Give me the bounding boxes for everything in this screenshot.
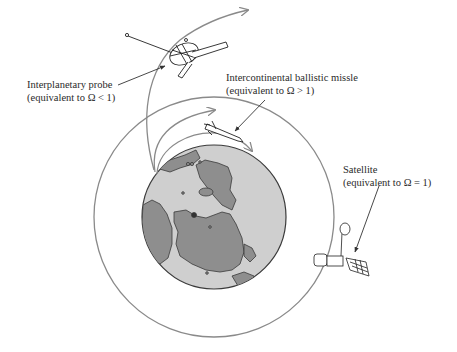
probe-label-omega: (equivalent to Ω < 1)	[27, 92, 115, 105]
missile-label: Intercontinental ballistic missle (equiv…	[226, 72, 358, 97]
satellite-label-title: Satellite	[343, 164, 431, 177]
satellite-label-omega: (equivalent to Ω = 1)	[343, 177, 431, 190]
missile-leader-line	[235, 100, 265, 131]
ballistic-missile-icon	[204, 121, 243, 142]
probe-label: Interplanetary probe (equivalent to Ω < …	[27, 79, 115, 104]
earth	[142, 145, 286, 289]
probe-leader-line	[118, 66, 165, 85]
missile-label-title: Intercontinental ballistic missle	[226, 72, 358, 85]
missile-label-omega: (equivalent to Ω > 1)	[226, 85, 358, 98]
satellite-label: Satellite (equivalent to Ω = 1)	[343, 164, 431, 189]
probe-label-title: Interplanetary probe	[27, 79, 115, 92]
satellite-leader-line	[355, 186, 379, 252]
interplanetary-probe-icon	[125, 33, 228, 78]
